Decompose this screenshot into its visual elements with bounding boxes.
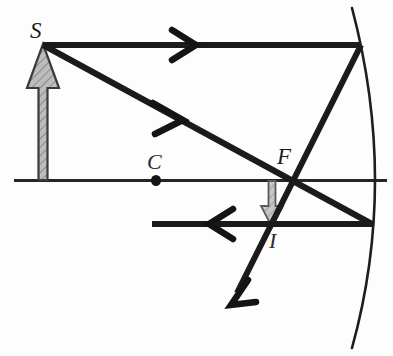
ray-diagram-figure: S C F I xyxy=(0,0,393,356)
incident-focus-ray xyxy=(43,45,372,224)
image-label: I xyxy=(268,228,278,253)
focal-point-label: F xyxy=(276,144,292,169)
incident-parallel-ray xyxy=(43,30,361,60)
reflected-focus-ray xyxy=(231,45,361,305)
object-label: S xyxy=(30,18,42,43)
ray-diagram-canvas: S C F I xyxy=(0,0,393,356)
object-arrow xyxy=(27,44,59,180)
center-of-curvature-label: C xyxy=(147,149,162,174)
center-of-curvature-point xyxy=(151,175,161,186)
